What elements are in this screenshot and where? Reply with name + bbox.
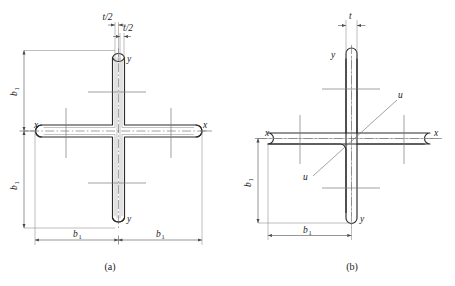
- panel-a-dim-horizontal-left: b 1: [73, 229, 82, 240]
- panel-a-axis-x-right-label: x: [202, 120, 208, 130]
- figure-root: t/2 t/2 x x y y b 1 b 1 b 1 b 1 t x x y …: [0, 0, 455, 286]
- panel-a-dim-horizontal-right-label: b: [156, 229, 161, 239]
- panel-b-dim-horizontal: b 1: [303, 225, 312, 236]
- panel-a-caption: (a): [104, 261, 115, 273]
- panel-b-u-axis-line: [313, 100, 397, 176]
- panel-a-centerlines: [30, 48, 208, 228]
- panel-a-thickness-upper-label: t/2: [103, 12, 113, 22]
- panel-b-axis-u-upper-label: u: [398, 90, 403, 100]
- panel-b-dim-vertical: b 1: [243, 178, 254, 187]
- panel-b-caption: (b): [346, 261, 358, 273]
- panel-a-axis-y-bottom-label: y: [126, 214, 132, 224]
- panel-a-axis-y-top-label: y: [126, 54, 132, 64]
- panel-a-dim-vertical-lower: b 1: [9, 181, 20, 190]
- panel-a: [20, 22, 213, 245]
- panel-b-axis-u-lower-label: u: [303, 172, 308, 182]
- panel-b-dim-horizontal-sub: 1: [308, 229, 311, 236]
- panel-a-thickness-lower-label: t/2: [123, 23, 133, 33]
- panel-a-dim-vertical-lower-sub: 1: [13, 181, 20, 184]
- panel-a-dim-horizontal-left-sub: 1: [78, 233, 81, 240]
- panel-b-horizontal-dimension: [268, 144, 352, 240]
- panel-a-dim-vertical-lower-label: b: [9, 185, 19, 190]
- panel-a-dim-vertical-upper: b 1: [9, 87, 20, 96]
- panel-b-axis-x-right-label: x: [433, 128, 439, 138]
- panel-b-axis-y-top-label: y: [330, 50, 336, 60]
- engineering-figure-svg: t/2 t/2 x x y y b 1 b 1 b 1 b 1 t x x y …: [0, 0, 455, 286]
- panel-a-dim-horizontal-right-sub: 1: [161, 233, 164, 240]
- panel-a-dim-horizontal-right: b 1: [156, 229, 165, 240]
- panel-b-thickness-label: t: [349, 11, 352, 21]
- panel-b-axis-x-left-label: x: [264, 128, 270, 138]
- panel-a-dim-vertical-upper-label: b: [9, 91, 19, 96]
- panel-b-axis-y-bottom-label: y: [359, 214, 365, 224]
- panel-b-section-outline: [268, 48, 430, 224]
- panel-b-dim-vertical-label: b: [243, 182, 253, 187]
- panel-b: [255, 20, 442, 240]
- panel-a-dim-horizontal-left-label: b: [73, 229, 78, 239]
- panel-b-centerlines: [258, 45, 440, 228]
- panel-b-dim-horizontal-label: b: [303, 225, 308, 235]
- panel-b-dim-vertical-sub: 1: [247, 178, 254, 181]
- panel-a-dim-vertical-upper-sub: 1: [13, 87, 20, 90]
- panel-b-axis-u: [313, 100, 397, 176]
- panel-a-vertical-dimensions: [20, 51, 116, 229]
- panel-a-axis-x-left-label: x: [33, 120, 39, 130]
